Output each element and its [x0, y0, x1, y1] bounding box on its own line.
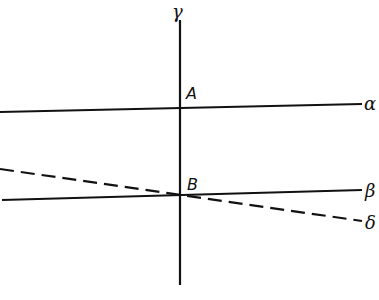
diagram-canvas: γ α β δ A B — [0, 0, 379, 300]
line-beta — [2, 190, 362, 200]
point-label-a: A — [185, 84, 197, 103]
label-alpha: α — [364, 93, 376, 114]
label-beta: β — [364, 180, 375, 201]
label-delta: δ — [365, 212, 376, 233]
point-label-b: B — [187, 175, 198, 194]
label-gamma: γ — [172, 1, 183, 22]
